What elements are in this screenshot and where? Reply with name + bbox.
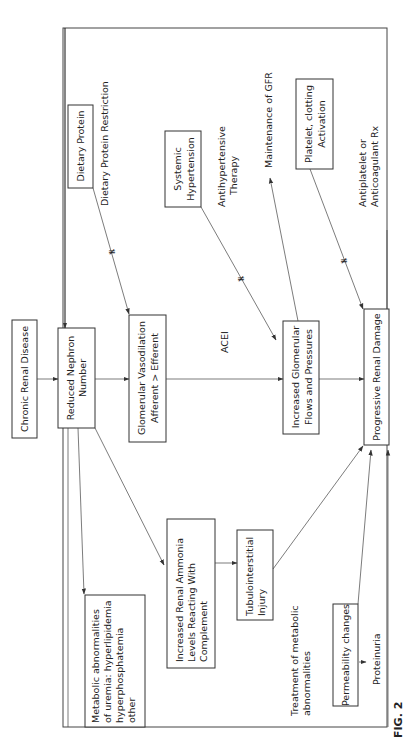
arrow-nephron-to-metabolic [78, 428, 84, 594]
text-tubulo-1: Tubulointerstitial [244, 537, 255, 617]
box-tubulointerstitial [237, 530, 273, 620]
text-ammonia-3: Complement [198, 601, 209, 662]
label-antiplatelet-2: Anticoagulant Rx [369, 125, 380, 207]
text-metabolic-2: of uremia: hyperlipidemia [102, 600, 113, 723]
box-platelet [296, 79, 333, 169]
text-vasodilation-1: Glomerular Vasodilation [136, 321, 147, 435]
text-ammonia-2: Levels Reacting With [186, 563, 197, 662]
text-vasodilation-2: Afferent > Efferent [149, 333, 160, 423]
label-treatment-2: abnormalities [301, 651, 312, 716]
renal-disease-flow-diagram: ≠ ≠ ≠ Chronic Renal Disease Reduced Neph… [0, 0, 405, 738]
label-maintenance-gfr: Maintenance of GFR [263, 72, 274, 168]
text-hypertension-1: Systemic [172, 147, 183, 190]
text-increased-glomerular-1: Increased Glomerular [290, 326, 301, 429]
arrow-platelet-to-damage [310, 169, 363, 309]
label-proteinuria: Proteinuria [371, 633, 382, 685]
arrow-tubulo-to-damage [273, 446, 363, 569]
block-mark-hypertension: ≠ [237, 273, 245, 284]
text-reduced-nephron-1: Reduced Nephron [65, 336, 76, 421]
text-ammonia-1: Increased Renal Ammonia [174, 538, 185, 662]
label-treatment-1: Treatment of metabolic [289, 605, 300, 717]
text-metabolic-4: other [126, 698, 137, 723]
block-mark-dietary: ≠ [108, 246, 116, 257]
text-tubulo-2: Injury [256, 589, 267, 616]
label-antihypertensive-1: Antihypertensive [216, 126, 227, 207]
label-antiplatelet-1: Antiplatelet or [357, 139, 368, 207]
text-metabolic-1: Metabolic abnormalities [90, 609, 101, 723]
text-dietary-protein: Dietary Protein [75, 110, 86, 181]
text-hypertension-2: Hypertension [185, 137, 196, 201]
label-antihypertensive-2: Therapy [228, 156, 239, 196]
arrow-glomerular-to-gfr [270, 178, 298, 321]
arrow-nephron-to-ammonia [95, 428, 164, 565]
box-glomerular-vasodilation [129, 315, 166, 442]
block-mark-platelet: ≠ [340, 255, 348, 266]
text-platelet-1: Platelet, clotting [303, 85, 314, 163]
text-increased-glomerular-2: Flows and Pressures [303, 329, 314, 425]
text-reduced-nephron-2: Number [77, 359, 88, 397]
arrow-permeability-to-damage [358, 450, 371, 604]
label-acei: ACEI [219, 331, 230, 353]
text-progressive-damage: Progressive Renal Damage [371, 313, 382, 440]
text-platelet-2: Activation [316, 100, 327, 148]
text-chronic-renal-disease: Chronic Renal Disease [19, 326, 30, 432]
text-metabolic-3: hyperphosphatemia [114, 628, 125, 723]
figure-label: FIG. 2 [392, 702, 405, 738]
text-permeability: Permeability changes [340, 604, 351, 706]
label-dietary-restriction: Dietary Protein Restriction [99, 81, 110, 206]
